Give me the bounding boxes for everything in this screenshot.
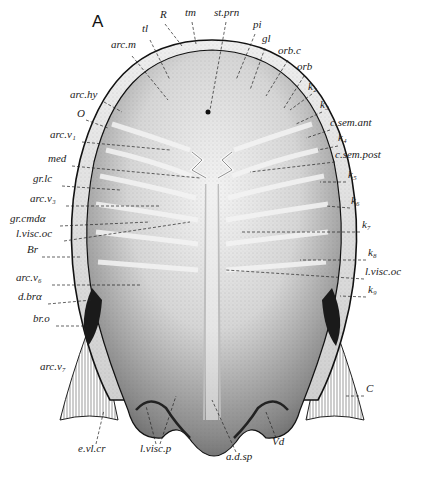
head-shield-illustration: [0, 0, 424, 478]
anatomical-label: k₆: [351, 195, 360, 206]
anatomical-label: l.visc.oc: [16, 228, 52, 239]
anatomical-label: arc.v₆: [16, 272, 42, 283]
anatomical-label: k₂: [308, 81, 317, 92]
anatomical-label: gl: [262, 33, 271, 44]
anatomical-label: tl: [142, 23, 148, 34]
anatomical-label: l.visc.p: [140, 443, 171, 454]
anatomical-label: k₈: [368, 247, 377, 258]
anatomical-label: c.sem.ant: [330, 117, 372, 128]
anatomical-figure: A tlRtmst.prnpiglarc.marc.hyOarc.v₁medgr…: [0, 0, 424, 478]
anatomical-label: med: [48, 153, 66, 164]
anatomical-label: k₃: [320, 99, 329, 110]
anatomical-label: br.o: [33, 313, 50, 324]
anatomical-label: gr.cmdα: [10, 213, 45, 224]
anatomical-label: Br: [27, 244, 38, 255]
anatomical-label: k₄: [338, 132, 347, 143]
anatomical-label: C: [366, 383, 373, 394]
anatomical-label: orb.c: [278, 45, 301, 56]
anatomical-label: arc.v₃: [30, 193, 56, 204]
anatomical-label: k₇: [362, 219, 371, 230]
anatomical-label: d.brα: [18, 291, 42, 302]
anatomical-label: k₉: [368, 284, 377, 295]
anatomical-label: orb: [297, 61, 312, 72]
anatomical-label: a.d.sp: [226, 451, 252, 462]
anatomical-label: Vd: [272, 436, 284, 447]
anatomical-label: tm: [185, 7, 196, 18]
anatomical-label: pi: [253, 19, 262, 30]
anatomical-label: l.visc.oc: [365, 266, 401, 277]
anatomical-label: gr.lc: [33, 173, 52, 184]
anatomical-label: c.sem.post: [335, 149, 381, 160]
anatomical-label: arc.v₁: [50, 129, 76, 140]
anatomical-label: arc.m: [111, 39, 136, 50]
panel-letter: A: [92, 12, 103, 32]
anatomical-label: k₅: [348, 169, 357, 180]
anatomical-label: R: [160, 9, 167, 20]
anatomical-label: O: [77, 108, 85, 119]
anatomical-label: st.prn: [214, 7, 239, 18]
anatomical-label: arc.hy: [70, 89, 97, 100]
anatomical-label: arc.v₇: [40, 361, 66, 372]
anatomical-label: e.vl.cr: [78, 443, 105, 454]
